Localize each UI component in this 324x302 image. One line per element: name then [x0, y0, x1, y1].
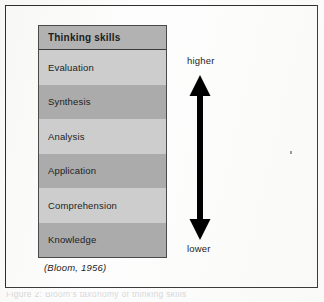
double-headed-arrow-icon [185, 75, 215, 240]
taxonomy-header-label: Thinking skills [48, 32, 120, 43]
source-citation: (Bloom, 1956) [44, 262, 106, 273]
figure-root: Thinking skills Evaluation Synthesis Ana… [0, 0, 324, 302]
taxonomy-level-label: Comprehension [48, 200, 117, 211]
taxonomy-level-label: Analysis [48, 131, 85, 142]
taxonomy-level-label: Synthesis [48, 96, 91, 107]
taxonomy-level-analysis: Analysis [39, 119, 166, 154]
taxonomy-level-label: Knowledge [48, 234, 96, 245]
taxonomy-level-label: Evaluation [48, 62, 94, 73]
taxonomy-header-band: Thinking skills [39, 26, 166, 50]
taxonomy-level-comprehension: Comprehension [39, 188, 166, 223]
taxonomy-level-evaluation: Evaluation [39, 50, 166, 85]
taxonomy-level-list: Evaluation Synthesis Analysis Applicatio… [39, 50, 166, 257]
scale-label-lower: lower [187, 243, 211, 254]
page-caption-text: Figure 2: Bloom's taxonomy of thinking s… [6, 292, 306, 299]
bloom-taxonomy-box: Thinking skills Evaluation Synthesis Ana… [38, 25, 167, 258]
scale-arrow-column: higher lower [170, 55, 240, 260]
taxonomy-level-label: Application [48, 165, 96, 176]
scale-label-higher: higher [187, 55, 215, 66]
scan-artifact-speck [290, 151, 292, 154]
taxonomy-level-knowledge: Knowledge [39, 223, 166, 258]
taxonomy-level-application: Application [39, 154, 166, 189]
taxonomy-level-synthesis: Synthesis [39, 85, 166, 120]
page-caption-clipped: Figure 2: Bloom's taxonomy of thinking s… [6, 292, 306, 302]
